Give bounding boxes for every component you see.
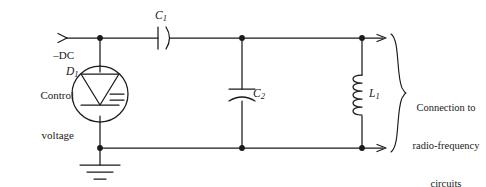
junction-dot-top-middle (239, 35, 245, 41)
rf-note-line-3: circuits (408, 178, 484, 187)
source-line-1: –DC (12, 49, 74, 62)
junction-dot-bottom-right (359, 145, 365, 151)
source-line-3: voltage (12, 129, 74, 142)
label-c2-sub: 2 (261, 91, 265, 101)
label-c2: C2 (253, 86, 265, 102)
rf-connection-note: Connection to radio-frequency circuits (408, 76, 484, 187)
junction-dot-bottom-left (97, 145, 103, 151)
label-c1-sub: 1 (163, 13, 167, 23)
label-d1-sub: 1 (74, 69, 78, 79)
source-line-2: Control (12, 89, 74, 102)
label-c1-ref: C (155, 9, 163, 21)
dc-control-voltage-label: –DC Control voltage (12, 22, 74, 169)
label-d1: D1 (66, 64, 79, 80)
junction-dot-bottom-middle (239, 145, 245, 151)
c1-plate-curved-icon (166, 27, 170, 49)
rf-note-line-1: Connection to (408, 102, 484, 115)
junction-dot-top-right (359, 35, 365, 41)
circuit-diagram-figure: –DC Control voltage D1 C1 C2 L1 Connecti… (0, 0, 486, 187)
rf-note-line-2: radio-frequency (408, 140, 484, 153)
label-l1: L1 (369, 86, 380, 102)
label-c2-ref: C (253, 87, 261, 99)
inductor-coil-icon (353, 75, 362, 115)
junction-dots (97, 35, 365, 151)
label-l1-sub: 1 (375, 91, 379, 101)
annotation-brace-icon (391, 34, 406, 152)
junction-dot-top-left (97, 35, 103, 41)
label-c1: C1 (155, 8, 167, 24)
